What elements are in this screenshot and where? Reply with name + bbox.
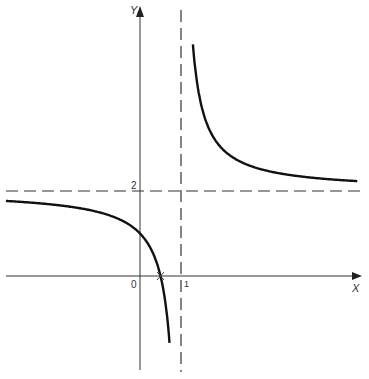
curve-right-branch — [193, 44, 357, 181]
y-tick-label: 2 — [131, 180, 137, 191]
x-tick-label: 1 — [184, 279, 189, 289]
y-axis-label: Y — [130, 4, 137, 16]
origin-label: 0 — [131, 279, 137, 290]
curve-left-branch — [6, 201, 170, 343]
plot-area — [0, 0, 369, 379]
x-axis-arrow-icon — [352, 272, 362, 280]
x-axis-label: X — [352, 282, 359, 294]
